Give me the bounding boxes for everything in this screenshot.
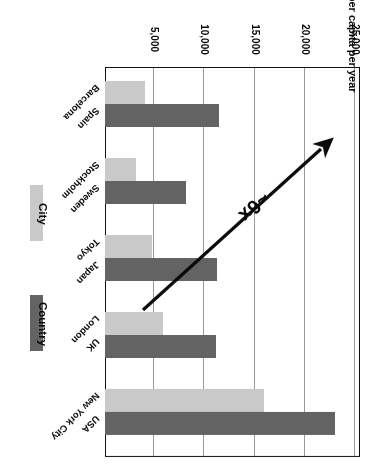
bar-city	[105, 235, 152, 258]
bar-country	[105, 412, 335, 435]
category-label: USA	[80, 414, 102, 436]
bar-country	[105, 104, 219, 127]
category-label: Japan	[75, 260, 102, 287]
bar-city	[105, 81, 145, 104]
chart-figure: Comparison of Country and City GHG Emiss…	[0, 0, 391, 470]
legend-label-country: Country	[37, 294, 49, 354]
category-label: UK	[84, 337, 101, 354]
tick-label: 5,000	[150, 18, 161, 62]
bar-city	[105, 389, 264, 412]
value-axis-title: Kg CO per capita per year	[347, 0, 359, 155]
tick-label: 20,000	[300, 18, 311, 62]
bar-country	[105, 258, 217, 281]
bar-country	[105, 335, 216, 358]
category-label: Tokyo	[75, 237, 102, 264]
gridline	[304, 68, 305, 456]
bar-city	[105, 158, 136, 181]
bar-city	[105, 312, 163, 335]
tick-label: 10,000	[200, 18, 211, 62]
legend-label-city: City	[37, 190, 49, 238]
bar-country	[105, 181, 186, 204]
tick-label: 15,000	[250, 18, 261, 62]
